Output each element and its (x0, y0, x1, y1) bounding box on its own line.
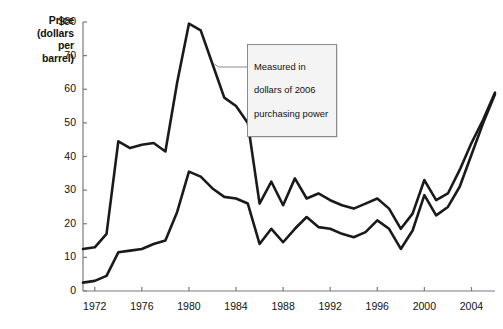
y-tick-label-70: 70 (46, 50, 76, 61)
y-tick-label-0: 0 (46, 285, 76, 296)
y-tick-label-20: 20 (46, 218, 76, 229)
annotation-callout: Measured in dollars of 2006 purchasing p… (247, 44, 337, 137)
oil-price-chart: Price (dollars per barrel) 0102030405060… (0, 0, 503, 329)
x-tick-label-1984: 1984 (216, 301, 256, 312)
y-tick-label-60: 60 (46, 83, 76, 94)
x-tick-label-1992: 1992 (310, 301, 350, 312)
x-tick-label-1980: 1980 (169, 301, 209, 312)
y-tick-label-10: 10 (46, 251, 76, 262)
annotation-line-2: dollars of 2006 (254, 84, 330, 96)
x-tick-label-2004: 2004 (451, 301, 491, 312)
annotation-leader-line (215, 64, 248, 67)
x-tick-label-1996: 1996 (357, 301, 397, 312)
x-tick-label-1988: 1988 (263, 301, 303, 312)
y-tick-label-80: $80 (46, 16, 76, 27)
annotation-line-1: Measured in (254, 61, 330, 73)
x-tick-label-1972: 1972 (75, 301, 115, 312)
x-tick-label-2000: 2000 (404, 301, 444, 312)
x-tick-label-1976: 1976 (122, 301, 162, 312)
annotation-line-3: purchasing power (254, 108, 330, 120)
y-tick-label-50: 50 (46, 117, 76, 128)
y-axis-title-line-2: (dollars (6, 27, 74, 40)
y-tick-label-30: 30 (46, 184, 76, 195)
y-tick-label-40: 40 (46, 151, 76, 162)
